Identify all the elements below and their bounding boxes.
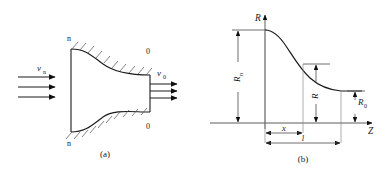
local-radius-symbol: R	[310, 93, 320, 100]
nozzle-body-outline	[71, 49, 150, 132]
outlet-radius-label: R 0	[357, 97, 367, 109]
technical-figure: v n v 0 n n 0 0 (a) R n	[0, 0, 388, 169]
inlet-velocity-symbol: v	[37, 63, 41, 73]
outlet-flow-arrows	[150, 84, 177, 98]
station-label-n-top: n	[67, 34, 71, 43]
figure-svg: v n v 0 n n 0 0 (a) R n	[0, 0, 388, 169]
z-axis-label: Z	[368, 126, 374, 136]
length-label: l	[302, 133, 305, 143]
inlet-velocity-label: v n	[37, 63, 46, 75]
radius-profile-curve	[265, 30, 362, 91]
station-label-0-top: 0	[146, 47, 150, 56]
local-radius-dimension	[303, 64, 330, 122]
station-label-n-bottom: n	[67, 139, 71, 148]
outlet-velocity-label: v 0	[157, 68, 166, 80]
reference-drop-lines	[265, 30, 341, 143]
nozzle-lower-contour	[71, 111, 150, 132]
outlet-radius-subscript: 0	[364, 103, 367, 109]
outlet-radius-symbol: R	[357, 97, 364, 107]
upper-wall-hatching	[72, 42, 152, 75]
outlet-velocity-symbol: v	[157, 68, 161, 78]
panel-b-caption: (b)	[298, 154, 309, 164]
panel-b: R n R R 0	[210, 13, 374, 164]
outlet-velocity-subscript: 0	[163, 74, 166, 80]
inlet-radius-symbol: R	[232, 76, 242, 83]
lower-wall-hatching	[66, 108, 147, 139]
local-radius-label: R	[310, 93, 320, 100]
station-label-0-bottom: 0	[146, 122, 150, 131]
inlet-radius-label: R n	[232, 73, 244, 83]
inlet-flow-arrows	[18, 77, 55, 97]
inlet-velocity-subscript: n	[43, 69, 46, 75]
nozzle-upper-contour	[71, 49, 150, 75]
r-axis-label: R	[254, 13, 261, 23]
axial-coordinate-label: x	[281, 123, 286, 133]
panel-a: v n v 0 n n 0 0 (a)	[18, 34, 177, 159]
inlet-radius-subscript: n	[238, 73, 244, 76]
panel-a-caption: (a)	[100, 149, 110, 159]
